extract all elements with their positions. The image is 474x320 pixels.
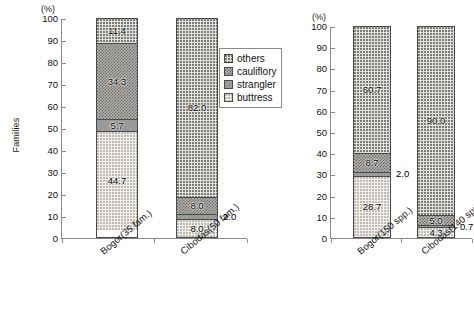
species-x-tick-mark bbox=[472, 239, 473, 243]
bar-cibodas-140-spp[interactable]: 90.05.00.74.3 bbox=[417, 26, 455, 238]
species-y-tick-label: 90 bbox=[316, 43, 327, 53]
families-x-tick-mark bbox=[247, 239, 248, 243]
buttress-swatch-icon bbox=[224, 93, 233, 102]
families-y-tick-label: 40 bbox=[47, 146, 58, 156]
bar-segment-value-label: 0.7 bbox=[460, 222, 473, 232]
bar-segment-value-label: 8.7 bbox=[365, 158, 378, 168]
bar-segment-others: 90.0 bbox=[418, 27, 454, 216]
species-x-tick-mark bbox=[331, 239, 332, 243]
legend-item-others[interactable]: others bbox=[224, 52, 276, 65]
species-y-tick-label: 20 bbox=[316, 192, 327, 202]
bar-segment-buttress: 44.7 bbox=[97, 132, 137, 230]
species-y-tick-label: 50 bbox=[316, 128, 327, 138]
bar-segment-value-label: 8.0 bbox=[190, 201, 203, 211]
legend-item-label: others bbox=[237, 54, 265, 64]
chart-legend: otherscauliflorystranglerbuttress bbox=[219, 48, 282, 108]
families-x-tick-mark bbox=[62, 239, 63, 243]
bar-segment-value-label: 8.0 bbox=[190, 224, 203, 234]
species-y-tick-label: 60 bbox=[316, 107, 327, 117]
families-y-tick-mark bbox=[62, 107, 66, 108]
bar-segment-others: 11.4 bbox=[97, 19, 137, 44]
families-y-tick-label: 100 bbox=[42, 14, 58, 24]
species-y-tick-label: 80 bbox=[316, 65, 327, 75]
families-y-tick-mark bbox=[62, 85, 66, 86]
species-y-tick-mark bbox=[331, 69, 335, 70]
species-y-tick-mark bbox=[331, 91, 335, 92]
families-y-tick-label: 20 bbox=[47, 190, 58, 200]
families-chart-panel: Families (%) 100908070605040302010011.43… bbox=[0, 0, 250, 320]
species-y-tick-mark bbox=[331, 48, 335, 49]
bar-segment-value-label: 11.4 bbox=[108, 26, 126, 36]
species-y-tick-label: 0 bbox=[322, 234, 327, 244]
families-y-tick-label: 70 bbox=[47, 80, 58, 90]
species-y-tick-label: 70 bbox=[316, 86, 327, 96]
legend-item-label: strangler bbox=[237, 80, 276, 90]
bar-segment-strangler: 5.7 bbox=[97, 120, 137, 133]
bar-segment-value-label: 60.7 bbox=[363, 85, 382, 95]
families-y-tick-mark bbox=[62, 129, 66, 130]
species-y-tick-label: 10 bbox=[316, 213, 327, 223]
families-y-tick-mark bbox=[62, 19, 66, 20]
families-y-tick-mark bbox=[62, 151, 66, 152]
species-y-tick-label: 30 bbox=[316, 171, 327, 181]
bar-segment-value-label: 2.0 bbox=[396, 169, 409, 179]
legend-item-label: buttress bbox=[237, 93, 273, 103]
bar-segment-cauliflory: 8.7 bbox=[354, 154, 390, 172]
families-y-tick-mark bbox=[62, 41, 66, 42]
bar-bogor-35-fam[interactable]: 11.434.35.744.7 bbox=[96, 18, 138, 238]
species-y-tick-mark bbox=[331, 175, 335, 176]
bar-segment-value-label: 28.7 bbox=[363, 202, 382, 212]
families-y-tick-label: 60 bbox=[47, 102, 58, 112]
bar-segment-value-label: 44.7 bbox=[108, 176, 127, 186]
others-swatch-icon bbox=[224, 54, 233, 63]
bar-segment-value-label: 2.0 bbox=[223, 212, 236, 222]
species-plot-area: 100908070605040302010060.78.72.028.7Bogo… bbox=[330, 27, 472, 239]
families-y-tick-mark bbox=[62, 217, 66, 218]
strangler-swatch-icon bbox=[224, 80, 233, 89]
bar-segment-others: 82.0 bbox=[177, 19, 217, 198]
families-y-tick-label: 0 bbox=[53, 234, 58, 244]
families-y-tick-mark bbox=[62, 63, 66, 64]
families-y-tick-label: 10 bbox=[47, 212, 58, 222]
families-y-axis-title: Families bbox=[11, 105, 21, 165]
bar-segment-value-label: 5.7 bbox=[110, 121, 123, 131]
species-y-tick-mark bbox=[331, 27, 335, 28]
bar-segment-cauliflory: 8.0 bbox=[177, 198, 217, 215]
families-y-tick-mark bbox=[62, 195, 66, 196]
bar-segment-cauliflory: 34.3 bbox=[97, 44, 137, 119]
species-chart-panel: Species (%) 100908070605040302010060.78.… bbox=[268, 0, 474, 320]
species-y-tick-label: 40 bbox=[316, 149, 327, 159]
species-y-tick-label: 100 bbox=[311, 22, 327, 32]
species-y-tick-mark bbox=[331, 218, 335, 219]
legend-item-label: cauliflory bbox=[237, 67, 276, 77]
families-x-tick-mark bbox=[154, 239, 155, 243]
bar-segment-others: 60.7 bbox=[354, 27, 390, 154]
bar-segment-value-label: 90.0 bbox=[427, 116, 446, 126]
species-y-tick-mark bbox=[331, 133, 335, 134]
families-y-tick-label: 50 bbox=[47, 124, 58, 134]
families-y-tick-label: 30 bbox=[47, 168, 58, 178]
cauliflory-swatch-icon bbox=[224, 67, 233, 76]
species-y-tick-mark bbox=[331, 112, 335, 113]
families-y-tick-mark bbox=[62, 173, 66, 174]
legend-item-strangler[interactable]: strangler bbox=[224, 78, 276, 91]
legend-item-cauliflory[interactable]: cauliflory bbox=[224, 65, 276, 78]
families-y-tick-label: 90 bbox=[47, 36, 58, 46]
species-x-tick-mark bbox=[401, 239, 402, 243]
bar-segment-value-label: 4.3 bbox=[429, 228, 442, 238]
bar-segment-value-label: 82.0 bbox=[188, 103, 207, 113]
species-y-tick-mark bbox=[331, 154, 335, 155]
bar-bogor-150-spp[interactable]: 60.78.72.028.7 bbox=[353, 26, 391, 238]
families-y-tick-label: 80 bbox=[47, 58, 58, 68]
bar-segment-value-label: 5.0 bbox=[429, 216, 442, 226]
species-y-tick-mark bbox=[331, 197, 335, 198]
legend-item-buttress[interactable]: buttress bbox=[224, 91, 276, 104]
bar-segment-value-label: 34.3 bbox=[108, 77, 127, 87]
bar-cibodas-50-fam[interactable]: 82.08.02.08.0 bbox=[176, 18, 218, 238]
